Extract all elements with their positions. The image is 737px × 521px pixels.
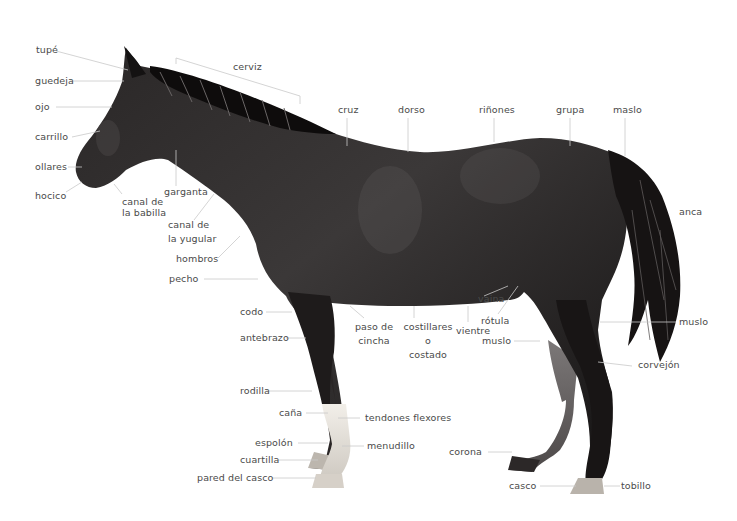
label-tobillo: tobillo	[621, 479, 651, 493]
label-muslo-front: muslo	[482, 334, 511, 348]
label-dorso: dorso	[398, 103, 425, 117]
label-costillares-3: costado	[403, 348, 453, 362]
label-ojo: ojo	[35, 100, 50, 114]
label-anca: anca	[679, 205, 702, 219]
label-garganta: garganta	[164, 185, 208, 199]
label-carrillo: carrillo	[35, 130, 68, 144]
label-antebrazo: antebrazo	[240, 331, 289, 345]
label-corona: corona	[449, 445, 482, 459]
label-cruz: cruz	[338, 103, 359, 117]
label-hombros: hombros	[176, 252, 218, 266]
label-guedeja: guedeja	[35, 74, 74, 88]
label-canal-babilla-2: la babilla	[122, 206, 166, 220]
label-ollares: ollares	[35, 160, 67, 174]
label-rotula: rótula	[481, 314, 509, 328]
label-espolon: espolón	[255, 436, 293, 450]
label-costillares-2: o	[403, 334, 453, 348]
label-pecho: pecho	[169, 272, 198, 286]
horse-anatomy-diagram: tupé guedeja ojo carrillo ollares hocico…	[0, 0, 737, 521]
label-costillares-1: costillares	[403, 320, 453, 334]
label-tupe: tupé	[36, 43, 58, 57]
label-cuartilla: cuartilla	[240, 453, 279, 467]
label-paso-cincha-2: cincha	[352, 334, 396, 348]
label-muslo-tail: muslo	[679, 315, 708, 329]
label-vaina: vaina	[478, 292, 504, 306]
front-hoof	[312, 474, 344, 488]
label-casco: casco	[509, 479, 537, 493]
label-grupa: grupa	[556, 103, 584, 117]
label-paso-cincha-1: paso de	[352, 320, 396, 334]
label-rodilla: rodilla	[240, 384, 270, 398]
label-codo: codo	[240, 305, 263, 319]
white-sock-front	[320, 404, 350, 478]
label-corvejon: corvejón	[638, 358, 680, 372]
label-hocico: hocico	[35, 189, 66, 203]
label-canal-yugular-1: canal de	[168, 218, 209, 232]
label-pared-casco: pared del casco	[197, 471, 274, 485]
label-menudillo: menudillo	[367, 439, 415, 453]
label-tendones-flexores: tendones flexores	[365, 411, 451, 425]
label-maslo: maslo	[613, 103, 642, 117]
label-rinones: riñones	[479, 103, 515, 117]
label-cana: caña	[279, 406, 302, 420]
near-front-leg	[288, 292, 335, 404]
label-cerviz: cerviz	[233, 60, 262, 74]
label-canal-yugular-2: la yugular	[168, 232, 217, 246]
